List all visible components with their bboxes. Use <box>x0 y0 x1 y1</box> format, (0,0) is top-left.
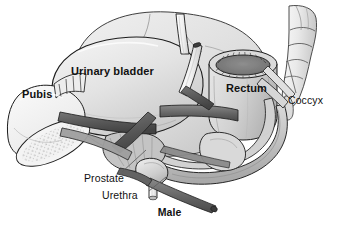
label-pubis: Pubis <box>22 89 52 100</box>
anatomy-figure: Urinary bladder Pubis Rectum Coccyx Pros… <box>0 0 339 232</box>
label-prostate: Prostate <box>84 173 124 184</box>
figure-caption: Male <box>0 207 339 218</box>
label-urethra: Urethra <box>102 190 138 201</box>
label-urinary-bladder: Urinary bladder <box>71 66 154 77</box>
label-rectum: Rectum <box>226 83 267 94</box>
anatomy-illustration <box>0 0 339 232</box>
label-coccyx: Coccyx <box>288 95 323 106</box>
